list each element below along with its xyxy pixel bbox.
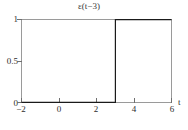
x-tick-label-0: 0 <box>57 104 62 114</box>
chart-title: ε(t−3) <box>0 1 188 12</box>
figure-canvas: ε(t−3) 1 0.5 0 −2 0 2 4 6 t <box>0 0 188 130</box>
curve-path-epsilon <box>22 20 172 103</box>
plot-area <box>21 19 172 103</box>
x-tick-label-4: 4 <box>132 104 137 114</box>
x-tick-label-6: 6 <box>170 104 175 114</box>
chart-title-text: ε(t−3) <box>78 1 100 12</box>
x-tick-label-2: 2 <box>94 104 99 114</box>
x-axis-label: t <box>178 97 181 107</box>
step-function-curve <box>21 19 172 103</box>
x-tick-label-minus-2: −2 <box>16 104 26 114</box>
